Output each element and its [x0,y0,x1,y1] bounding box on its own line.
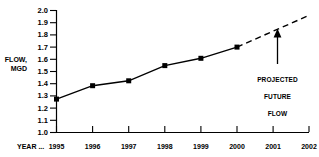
flow-projection-chart: 2.0 1.9 1.8 1.7 1.6 1.5 1.4 1.3 1.2 1.1 … [0,0,319,157]
ytick-label-1-4: 1.4 [28,79,48,88]
ytick-label-1-5: 1.5 [28,67,48,76]
ytick-label-1-2: 1.2 [28,104,48,113]
xtick-label-2002: 2002 [295,143,319,150]
ytick-label-1-9: 1.9 [28,18,48,27]
projected-future-flow-annotation: PROJECTED FUTURE FLOW [248,67,307,127]
xtick-label-1996: 1996 [79,143,107,150]
ytick-label-1-8: 1.8 [28,30,48,39]
annotation-line-3: FLOW [248,110,307,119]
xtick-label-2001: 2001 [259,143,287,150]
ytick-label-1-0: 1.0 [28,128,48,137]
series-projected-flow-line [237,15,309,47]
projected-flow-arrow-icon [274,29,282,65]
y-axis-ticks [50,11,56,133]
xtick-label-1999: 1999 [187,143,215,150]
ytick-label-1-7: 1.7 [28,43,48,52]
annotation-line-1: PROJECTED [248,76,307,85]
ytick-label-1-1: 1.1 [28,116,48,125]
x-axis-title: YEAR ... [17,143,44,150]
xtick-label-1997: 1997 [115,143,143,150]
ytick-label-1-6: 1.6 [28,55,48,64]
ytick-label-1-3: 1.3 [28,91,48,100]
xtick-label-1998: 1998 [151,143,179,150]
series-measured-flow-line [57,47,238,99]
y-axis-title-line1: FLOW, [0,55,27,64]
xtick-label-1995: 1995 [43,143,71,150]
xtick-label-2000: 2000 [223,143,251,150]
y-axis-title-line2: MGD [0,64,27,73]
x-axis-ticks [57,126,310,132]
annotation-line-2: FUTURE [248,93,307,102]
ytick-label-2-0: 2.0 [28,6,48,15]
